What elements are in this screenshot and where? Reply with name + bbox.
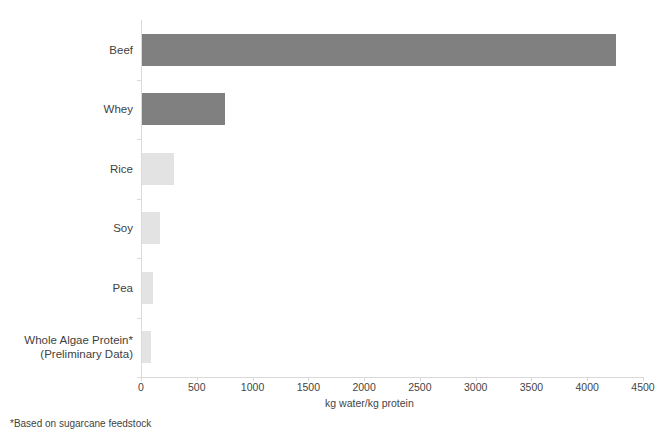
x-axis-tick-label: 2500 <box>390 381 450 393</box>
x-axis-tick-label: 1500 <box>278 381 338 393</box>
bar <box>142 212 160 244</box>
x-axis-line <box>141 377 644 378</box>
category-label: Whole Algae Protein*(Preliminary Data) <box>24 333 133 361</box>
y-axis-tick <box>137 80 141 81</box>
bar <box>142 93 225 125</box>
x-axis-tick-label: 4500 <box>613 381 672 393</box>
x-axis-tick-label: 4000 <box>557 381 617 393</box>
bar <box>142 34 616 66</box>
x-axis-tick-label: 3500 <box>501 381 561 393</box>
bar <box>142 153 174 185</box>
bar-chart: 050010001500200025003000350040004500 kg … <box>0 0 672 443</box>
category-label: Whey <box>104 102 133 116</box>
category-label: Rice <box>110 162 133 176</box>
x-axis-tick-label: 500 <box>167 381 227 393</box>
plot-area <box>141 20 643 377</box>
category-label-line2: (Preliminary Data) <box>24 347 133 361</box>
bar <box>142 331 151 363</box>
chart-footnote: *Based on sugarcane feedstock <box>10 418 151 429</box>
x-axis-title: kg water/kg protein <box>325 397 414 409</box>
category-label: Soy <box>113 221 133 235</box>
x-axis-tick-label: 3000 <box>446 381 506 393</box>
x-axis-tick-label: 0 <box>111 381 171 393</box>
category-label: Beef <box>109 43 133 57</box>
x-axis-tick-label: 1000 <box>223 381 283 393</box>
y-axis-tick <box>137 258 141 259</box>
x-axis-tick-label: 2000 <box>334 381 394 393</box>
y-axis-tick <box>137 199 141 200</box>
bar <box>142 272 153 304</box>
y-axis-tick <box>137 139 141 140</box>
category-label: Pea <box>113 281 133 295</box>
y-axis-tick <box>137 318 141 319</box>
